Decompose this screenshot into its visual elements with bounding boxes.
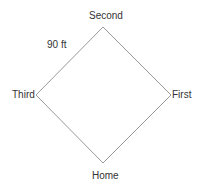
label-third: Third [12,89,35,101]
label-second: Second [89,10,123,22]
label-side-length: 90 ft [47,39,66,51]
label-home: Home [92,170,119,182]
label-first: First [172,89,191,101]
